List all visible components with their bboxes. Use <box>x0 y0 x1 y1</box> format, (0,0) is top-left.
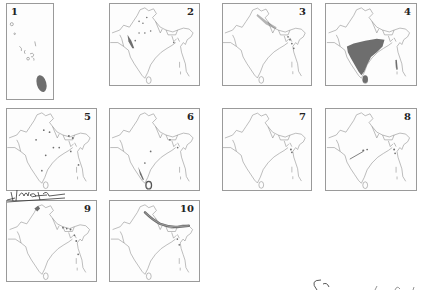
map-panel-2: 2 <box>109 3 200 86</box>
india-map <box>7 201 96 281</box>
india-map <box>223 4 311 85</box>
india-map <box>326 109 416 190</box>
shaded-region <box>347 39 385 76</box>
shaded-island <box>35 74 49 93</box>
map-panel-1: 1 <box>6 3 54 100</box>
india-map <box>110 109 199 190</box>
india-map <box>326 4 416 85</box>
map-panel-3: 3 <box>222 3 312 86</box>
india-map <box>7 109 96 190</box>
map-panel-9: 9 <box>6 200 97 282</box>
map-panel-7: 7 <box>222 108 312 191</box>
handwriting-scribble-right <box>295 276 425 291</box>
map-panel-4: 4 <box>325 3 417 86</box>
map-panel-5: 5 <box>6 108 97 191</box>
india-map <box>110 201 199 281</box>
map-panel-6: 6 <box>109 108 200 191</box>
india-map <box>110 4 199 85</box>
india-map <box>223 109 311 190</box>
map-panel-8: 8 <box>325 108 417 191</box>
map-panel-10: 10 <box>109 200 200 282</box>
islands-map <box>7 4 53 99</box>
himalayan-band <box>145 212 189 226</box>
handwriting-scribble-left <box>5 186 67 204</box>
shaded-region <box>128 35 135 49</box>
